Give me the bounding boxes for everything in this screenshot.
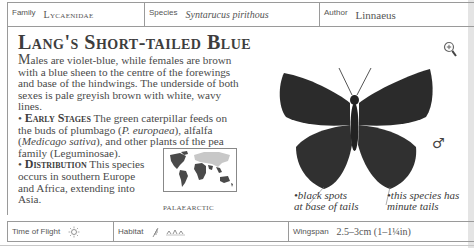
species-label: Species — [149, 8, 177, 17]
species-cell: Species Syntarucus pirithous — [144, 3, 319, 26]
family-value: Lycaenidae — [44, 9, 94, 20]
header-bar: Family Lycaenidae Species Syntarucus pir… — [7, 2, 474, 27]
family-label: Family — [12, 8, 36, 17]
world-map-graphic — [164, 149, 236, 191]
author-value: Linnaeus — [356, 9, 396, 21]
distribution-block: • Distribution This species occurs in so… — [18, 159, 148, 205]
butterfly-illustration — [268, 55, 444, 210]
map-region-label: PALAEARCTIC — [163, 204, 214, 212]
male-symbol: ♂ — [432, 135, 445, 151]
species-value: Syntarucus pirithous — [185, 9, 268, 20]
habitat-label: Habitat — [118, 227, 143, 236]
left-rule — [7, 27, 8, 215]
early-stages-italic-1: P. europaea — [122, 124, 175, 136]
page-edge-shade — [468, 0, 474, 248]
early-stages-italic-2: Medicago sativa — [22, 135, 96, 147]
wingspan-label: Wingspan — [293, 227, 329, 236]
species-title: Lang's Short-tailed Blue — [18, 31, 251, 54]
annotation-minute-tails: •this species has minute tails — [387, 190, 459, 212]
world-map — [163, 148, 237, 192]
footer-bar: Time of Flight Habitat Wingspan 2.5–3cm … — [7, 221, 474, 242]
bullet: • — [18, 112, 22, 124]
sun-icon — [68, 226, 80, 238]
bottom-rule — [0, 245, 474, 246]
author-label: Author — [324, 8, 348, 17]
meadow-icon — [166, 228, 186, 236]
intro-text: ales are violet-blue, while females are … — [18, 54, 239, 112]
family-cell: Family Lycaenidae — [7, 3, 144, 26]
wingspan-value: 2.5–3cm (1–1¼in) — [337, 226, 411, 237]
time-of-flight-cell: Time of Flight — [7, 222, 113, 241]
magnifier-zoom-icon[interactable] — [443, 41, 458, 59]
author-cell: Author Linnaeus — [319, 3, 474, 26]
habitat-cell: Habitat — [113, 222, 288, 241]
time-of-flight-label: Time of Flight — [12, 227, 60, 236]
wingspan-cell: Wingspan 2.5–3cm (1–1¼in) — [288, 222, 474, 241]
bullet: • — [18, 158, 22, 170]
grass-icon — [151, 226, 161, 238]
annotation-black-spots: •black spots at base of tails — [294, 190, 358, 212]
